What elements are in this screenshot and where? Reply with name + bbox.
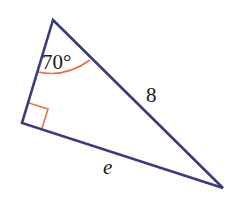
triangle-diagram: 70° 8 e bbox=[0, 0, 228, 197]
side-e-label: e bbox=[103, 155, 112, 179]
right-angle-marker bbox=[29, 103, 48, 128]
triangle bbox=[22, 20, 223, 188]
hypotenuse-label: 8 bbox=[146, 83, 157, 107]
angle-label: 70° bbox=[42, 50, 71, 74]
